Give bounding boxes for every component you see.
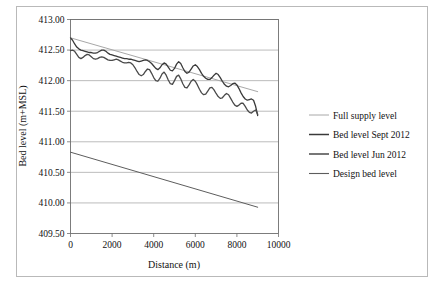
y-axis-tick-labels: 409.50410.00410.50411.00411.50412.00412.… (38, 15, 70, 239)
x-axis-title: Distance (m) (148, 259, 200, 271)
series-line (71, 152, 258, 207)
chart-legend: Full supply levelBed level Sept 2012Bed … (309, 111, 410, 180)
y-tick-label: 412.00 (38, 76, 64, 86)
plot-area-border (71, 20, 279, 234)
legend-label: Bed level Jun 2012 (333, 150, 406, 160)
series-line (71, 38, 258, 92)
legend-label: Design bed level (333, 169, 397, 179)
y-tick-label: 411.00 (39, 137, 65, 147)
x-tick-label: 4000 (144, 240, 163, 250)
x-tick-label: 0 (68, 240, 73, 250)
y-tick-label: 410.50 (38, 168, 64, 178)
y-tick-label: 410.00 (38, 198, 64, 208)
x-tick-label: 8000 (227, 240, 246, 250)
y-axis-title: Bed level (m+MSL) (17, 85, 29, 166)
line-chart: 409.50410.00410.50411.00411.50412.00412.… (0, 0, 443, 290)
y-tick-label: 413.00 (38, 15, 64, 25)
y-tick-label: 411.50 (39, 107, 65, 117)
series-line (71, 50, 258, 114)
x-tick-label: 10000 (267, 240, 291, 250)
y-tick-label: 409.50 (38, 229, 64, 239)
chart-figure: 409.50410.00410.50411.00411.50412.00412.… (0, 0, 443, 290)
data-series-group (71, 38, 258, 207)
x-axis-ticks (71, 234, 279, 238)
y-tick-label: 412.50 (38, 45, 64, 55)
x-tick-label: 2000 (103, 240, 122, 250)
legend-label: Bed level Sept 2012 (333, 130, 410, 140)
legend-label: Full supply level (333, 111, 397, 121)
x-tick-label: 6000 (186, 240, 205, 250)
plot-frame (71, 20, 279, 234)
series-line (71, 38, 258, 116)
x-axis-tick-labels: 0200040006000800010000 (68, 240, 291, 250)
